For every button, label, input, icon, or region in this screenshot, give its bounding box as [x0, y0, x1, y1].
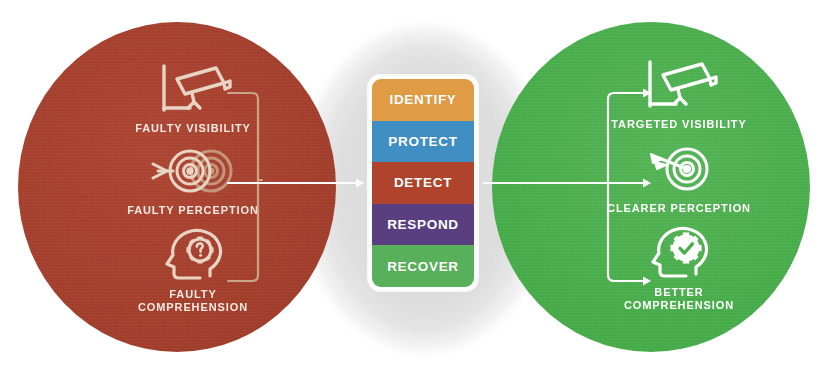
nist-csf-stack: IDENTIFY PROTECT DETECT RESPOND RECOVER [369, 76, 477, 290]
item-clearer-perception: CLEARER PERCEPTION [584, 140, 774, 215]
cctv-camera-clear-icon [584, 56, 774, 114]
item-faulty-comprehension: FAULTY COMPREHENSION [98, 226, 288, 314]
cctv-camera-faulty-icon [98, 60, 288, 118]
band-protect[interactable]: PROTECT [372, 121, 474, 163]
item-faulty-perception: FAULTY PERCEPTION [98, 142, 288, 217]
head-gear-question-icon [98, 226, 288, 284]
head-gear-check-icon [584, 224, 774, 282]
item-label: CLEARER PERCEPTION [584, 202, 774, 215]
item-label: FAULTY COMPREHENSION [98, 288, 288, 314]
blurred-target-icon [98, 142, 288, 200]
band-detect[interactable]: DETECT [372, 162, 474, 204]
item-label: TARGETED VISIBILITY [584, 118, 774, 131]
item-label: BETTER COMPREHENSION [584, 286, 774, 312]
item-targeted-visibility: TARGETED VISIBILITY [584, 56, 774, 131]
item-better-comprehension: BETTER COMPREHENSION [584, 224, 774, 312]
band-identify[interactable]: IDENTIFY [372, 79, 474, 121]
target-dart-icon [584, 140, 774, 198]
item-label: FAULTY PERCEPTION [98, 204, 288, 217]
infographic-canvas: FAULTY VISIBILITY FAUL [0, 0, 830, 377]
item-label: FAULTY VISIBILITY [98, 122, 288, 135]
band-respond[interactable]: RESPOND [372, 204, 474, 246]
item-faulty-visibility: FAULTY VISIBILITY [98, 60, 288, 135]
band-recover[interactable]: RECOVER [372, 245, 474, 287]
